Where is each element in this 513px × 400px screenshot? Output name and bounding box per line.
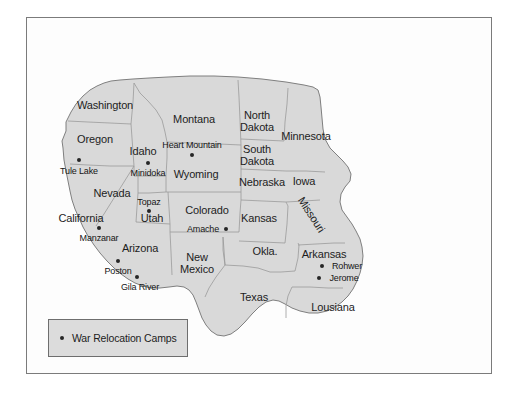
land-mass-group [62, 76, 363, 336]
map-stage: Washington Oregon Idaho Montana NorthDak… [0, 0, 513, 400]
map-legend: War Relocation Camps [48, 319, 188, 357]
legend-marker-dot-icon [60, 336, 64, 340]
legend-entry-war-relocation-camps: War Relocation Camps [49, 320, 187, 356]
land-mass-outline [62, 76, 363, 336]
figure-root: Washington Oregon Idaho Montana NorthDak… [0, 0, 513, 400]
legend-entry-label: War Relocation Camps [72, 332, 177, 344]
